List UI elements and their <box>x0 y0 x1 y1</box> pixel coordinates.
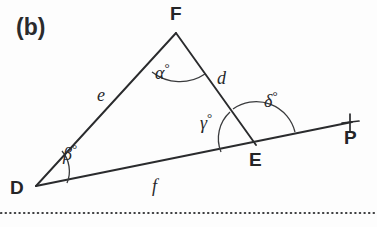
vertex-label-E: E <box>249 150 262 169</box>
vertex-label-D: D <box>10 178 24 197</box>
degree-sign-alpha: ° <box>164 60 169 75</box>
side-label-e: e <box>97 86 105 104</box>
segment-DF <box>36 33 176 186</box>
side-label-d: d <box>217 69 226 87</box>
angle-label-delta: δ° <box>264 92 278 110</box>
segment-DEP <box>36 122 352 186</box>
angle-symbol-beta: β <box>63 144 72 164</box>
angle-label-beta: β° <box>63 145 77 163</box>
vertex-label-F: F <box>170 4 182 23</box>
angle-label-alpha: α° <box>155 64 170 82</box>
figure-canvas: (b) D F E P e d f α° β° γ° δ° <box>0 0 377 227</box>
degree-sign-beta: ° <box>72 141 77 156</box>
geometry-figure <box>0 0 377 227</box>
degree-sign-gamma: ° <box>207 110 212 125</box>
angle-label-gamma: γ° <box>200 114 212 132</box>
vertex-label-P: P <box>344 128 357 147</box>
side-label-f: f <box>152 177 157 195</box>
degree-sign-delta: ° <box>272 88 277 103</box>
panel-label: (b) <box>16 16 45 39</box>
segment-FE <box>176 33 256 145</box>
